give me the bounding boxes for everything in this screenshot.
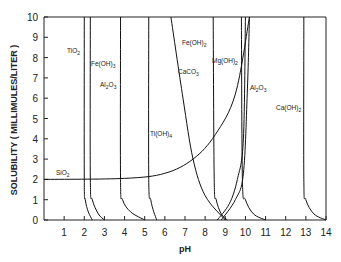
x-tick-label: 13 [300, 227, 312, 238]
x-tick-labels: 1234567891011121314 [61, 227, 332, 238]
x-tick-label: 12 [280, 227, 292, 238]
label-tioh4: Ti(OH)4 [150, 130, 172, 139]
label-tio2: TiO2 [67, 47, 80, 56]
curve-al2o3 [120, 17, 144, 220]
x-tick-label: 6 [162, 227, 168, 238]
x-tick-label: 5 [142, 227, 148, 238]
x-tick-label: 9 [223, 227, 229, 238]
curve-caco3 [171, 17, 225, 220]
series-curves [44, 17, 326, 220]
curve-sio2 [44, 17, 249, 179]
y-ticks [44, 17, 48, 220]
label-feoh2: Fe(OH)2 [182, 39, 207, 48]
x-tick-label: 8 [202, 227, 208, 238]
curve-caoh2 [304, 17, 326, 220]
x-tick-label: 1 [61, 227, 67, 238]
label-al2o3-left: Al2O3 [100, 81, 117, 90]
x-axis-title: pH [179, 244, 191, 254]
series-labels: TiO2 Fe(OH)3 Al2O3 Ti(OH)4 CaCO3 Fe(OH)2… [56, 39, 301, 178]
x-tick-label: 10 [240, 227, 252, 238]
y-tick-label: 10 [27, 12, 39, 23]
x-tick-label: 7 [182, 227, 188, 238]
y-tick-label: 8 [32, 53, 38, 64]
y-tick-label: 5 [32, 114, 38, 125]
curve-feoh3 [90, 17, 104, 220]
y-tick-label: 2 [32, 174, 38, 185]
plot-frame [44, 17, 326, 220]
y-tick-label: 4 [32, 134, 38, 145]
y-tick-label: 7 [32, 73, 38, 84]
label-caoh2: Ca(OH)2 [276, 104, 301, 113]
y-tick-label: 9 [32, 32, 38, 43]
label-mgoh2: Mg(OH)2 [212, 57, 238, 66]
label-sio2: SiO2 [56, 169, 70, 178]
curve-tio2 [84, 17, 92, 220]
x-tick-label: 4 [122, 227, 128, 238]
y-tick-labels: 012345678910 [27, 12, 39, 226]
y-tick-label: 0 [32, 215, 38, 226]
y-axis-title: SOLUBILITY ( MILLIMULES/LITER ) [9, 45, 19, 195]
label-caco3: CaCO3 [178, 68, 199, 77]
x-tick-label: 14 [320, 227, 332, 238]
curve-tioh4 [149, 17, 157, 220]
x-tick-label: 3 [102, 227, 108, 238]
y-tick-label: 3 [32, 154, 38, 165]
x-tick-label: 2 [82, 227, 88, 238]
x-tick-label: 11 [260, 227, 271, 238]
label-al2o3-right: Al2O3 [250, 84, 267, 93]
y-tick-label: 6 [32, 93, 38, 104]
y-tick-label: 1 [32, 195, 38, 206]
label-feoh3: Fe(OH)3 [91, 60, 116, 69]
solubility-chart: 1234567891011121314 012345678910 pH SOLU… [0, 0, 341, 262]
